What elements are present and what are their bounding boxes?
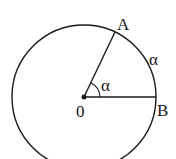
circle-diagram: A B 0 α α — [0, 0, 176, 159]
circle — [12, 25, 156, 159]
radius-oa — [84, 32, 115, 97]
center-dot — [82, 95, 87, 100]
angle-label: α — [101, 76, 110, 95]
center-label: 0 — [76, 102, 85, 121]
arc-label: α — [149, 50, 158, 69]
point-b-label: B — [157, 101, 168, 120]
angle-arc — [91, 83, 100, 97]
point-a-label: A — [117, 15, 130, 34]
